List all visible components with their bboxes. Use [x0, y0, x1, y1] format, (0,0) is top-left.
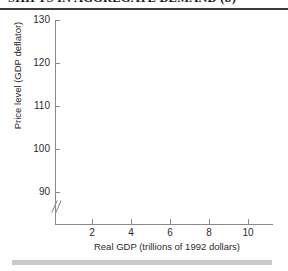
y-axis-tick	[55, 106, 60, 107]
figure-title-clipped: SHIFTS IN AGGREGATE DEMAND (b)	[0, 0, 288, 7]
bottom-gray-band	[12, 260, 272, 265]
y-axis-tick-label: 110	[10, 101, 50, 111]
x-axis-tick	[131, 219, 132, 224]
y-axis-tick-label: 90	[10, 187, 50, 197]
x-axis-tick	[170, 219, 171, 224]
y-axis-tick	[55, 20, 60, 21]
y-axis-tick	[55, 63, 60, 64]
y-axis-spine	[55, 20, 56, 225]
y-axis-tick	[55, 192, 60, 193]
figure-title-text: SHIFTS IN AGGREGATE DEMAND (b)	[8, 0, 236, 6]
x-axis-tick-label: 6	[155, 227, 185, 238]
x-axis-tick	[209, 219, 210, 224]
y-axis-break-icon	[49, 198, 63, 218]
y-axis-tick	[55, 149, 60, 150]
y-axis-tick-label: 120	[10, 58, 50, 68]
x-axis-tick-label: 10	[233, 227, 263, 238]
x-axis-tick	[92, 219, 93, 224]
x-axis-tick-label: 4	[116, 227, 146, 238]
x-axis-tick-label: 8	[194, 227, 224, 238]
y-axis-tick-label: 130	[10, 15, 50, 25]
x-axis-spine	[55, 224, 273, 225]
y-axis-tick-label: 100	[10, 144, 50, 154]
x-axis-title: Real GDP (trillions of 1992 dollars)	[55, 241, 279, 252]
chart-plot-area: Price level (GDP deflator) 130 120 110 1…	[0, 12, 288, 234]
title-divider-rule	[0, 8, 288, 10]
x-axis-tick-label: 2	[77, 227, 107, 238]
x-axis-tick	[248, 219, 249, 224]
